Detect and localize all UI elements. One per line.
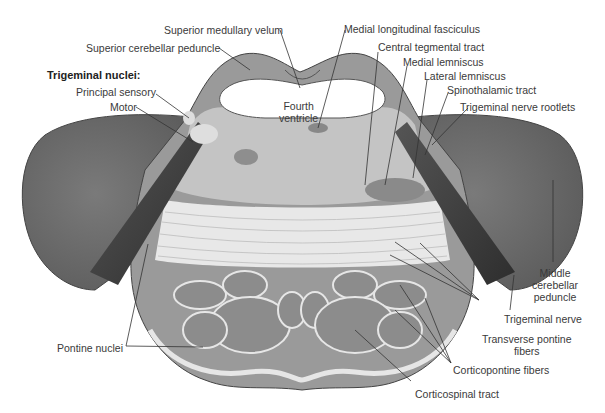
central-tegmental-area	[234, 149, 258, 165]
motor-nucleus	[190, 124, 218, 144]
label-corticopontine-fibers: Corticopontine fibers	[453, 364, 549, 376]
medial-lemniscus-area	[365, 178, 425, 202]
label-middle-cerebellar-peduncle: Middle cerebellar peduncle	[532, 267, 578, 303]
label-mcp-line2: cerebellar	[532, 279, 578, 291]
label-mcp-line1: Middle	[532, 267, 578, 279]
label-trigeminal-nerve: Trigeminal nerve	[504, 313, 582, 325]
label-superior-medullary-velum: Superior medullary velum	[164, 24, 283, 36]
label-spinothalamic-tract: Spinothalamic tract	[447, 84, 536, 96]
label-central-tegmental-tract: Central tegmental tract	[378, 41, 484, 53]
label-lateral-lemniscus: Lateral lemniscus	[424, 70, 506, 82]
label-medial-lemniscus: Medial lemniscus	[403, 56, 484, 68]
label-superior-cerebellar-peduncle: Superior cerebellar peduncle	[86, 42, 220, 54]
trigeminal-nuclei-heading: Trigeminal nuclei:	[47, 69, 141, 81]
label-corticospinal-tract: Corticospinal tract	[415, 388, 499, 400]
label-principal-sensory: Principal sensory	[76, 86, 156, 98]
label-fourth-ventricle-line2: ventricle	[279, 112, 318, 124]
label-fourth-ventricle-line1: Fourth	[279, 100, 318, 112]
label-motor: Motor	[110, 101, 137, 113]
transverse-fibers-region	[155, 200, 450, 268]
label-pontine-nuclei: Pontine nuclei	[57, 342, 123, 354]
label-medial-longitudinal-fasciculus: Medial longitudinal fasciculus	[344, 23, 480, 35]
label-fourth-ventricle: Fourth ventricle	[279, 100, 318, 124]
label-mcp-line3: peduncle	[532, 291, 578, 303]
label-tpf-line1: Transverse pontine	[482, 333, 572, 345]
label-tpf-line2: fibers	[482, 345, 572, 357]
label-trigeminal-nerve-rootlets: Trigeminal nerve rootlets	[460, 101, 575, 113]
label-transverse-pontine-fibers: Transverse pontine fibers	[482, 333, 572, 357]
